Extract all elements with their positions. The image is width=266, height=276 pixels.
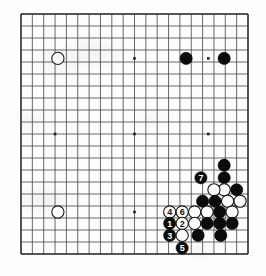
stone-black[interactable] bbox=[209, 195, 221, 207]
stone-black[interactable] bbox=[218, 172, 230, 184]
stones-layer[interactable]: 7461235 bbox=[52, 52, 246, 254]
move-number-label-7: 7 bbox=[198, 173, 203, 183]
star-points bbox=[54, 57, 210, 213]
stone-white[interactable] bbox=[52, 52, 64, 64]
stone-white[interactable] bbox=[189, 217, 201, 229]
stone-black[interactable] bbox=[226, 217, 238, 229]
star-point bbox=[133, 133, 136, 136]
go-diagram: 7461235 bbox=[0, 0, 266, 276]
move-number-label-4: 4 bbox=[167, 207, 172, 217]
stone-black[interactable] bbox=[218, 159, 230, 171]
stone-white[interactable] bbox=[234, 195, 246, 207]
stone-black[interactable] bbox=[218, 52, 230, 64]
star-point bbox=[133, 57, 136, 60]
star-point bbox=[207, 57, 210, 60]
move-number-label-2: 2 bbox=[180, 219, 185, 229]
move-number-label-3: 3 bbox=[167, 231, 172, 241]
stone-white[interactable] bbox=[201, 206, 213, 218]
stone-white[interactable] bbox=[208, 184, 220, 196]
go-board[interactable]: 7461235 bbox=[0, 0, 266, 276]
star-point bbox=[133, 211, 136, 214]
stone-white[interactable] bbox=[226, 206, 238, 218]
stone-black[interactable] bbox=[215, 229, 227, 241]
stone-white[interactable] bbox=[52, 206, 64, 218]
stone-black[interactable] bbox=[180, 52, 192, 64]
star-point bbox=[54, 133, 57, 136]
stone-white[interactable] bbox=[189, 206, 201, 218]
stone-black[interactable] bbox=[201, 217, 213, 229]
move-number-label-6: 6 bbox=[180, 207, 185, 217]
stone-white[interactable] bbox=[176, 229, 188, 241]
star-point bbox=[207, 133, 210, 136]
stone-black[interactable] bbox=[231, 184, 243, 196]
move-number-label-1: 1 bbox=[167, 219, 172, 229]
stone-black[interactable] bbox=[214, 206, 226, 218]
move-number-label-5: 5 bbox=[180, 243, 185, 253]
stone-black[interactable] bbox=[192, 229, 204, 241]
stone-black[interactable] bbox=[214, 217, 226, 229]
